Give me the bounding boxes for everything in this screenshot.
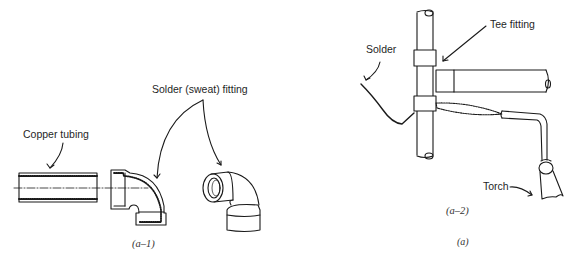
label-solder: Solder — [366, 43, 396, 55]
tee-branch-drawing — [436, 70, 551, 92]
flame-drawing — [436, 103, 502, 115]
tee-fitting-leader — [443, 26, 486, 61]
fitting-leader-right — [203, 100, 221, 165]
vertical-pipe-drawing — [414, 10, 436, 159]
elbow-3d-drawing — [203, 172, 260, 232]
caption-a-1: (a–1) — [132, 238, 155, 249]
label-torch: Torch — [483, 180, 509, 192]
solder-wire-drawing — [361, 84, 414, 124]
caption-a-2: (a–2) — [446, 205, 469, 216]
torch-drawing — [501, 111, 563, 199]
label-tee-fitting: Tee fitting — [490, 18, 535, 30]
torch-leader — [510, 187, 532, 195]
label-solder-fitting: Solder (sweat) fitting — [152, 83, 248, 95]
elbow-cross-section-drawing — [111, 170, 166, 225]
label-copper-tubing: Copper tubing — [23, 128, 89, 140]
copper-tube-drawing — [19, 173, 97, 202]
copper-tubing-leader — [50, 143, 63, 168]
caption-a: (a) — [457, 236, 469, 247]
solder-leader — [366, 62, 380, 80]
fitting-leader-left — [157, 100, 203, 178]
